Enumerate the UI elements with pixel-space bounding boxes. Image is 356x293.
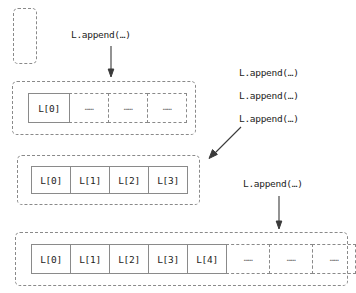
cell-ellipsis: ……: [124, 103, 133, 112]
arrow-down-1: [106, 46, 116, 78]
cell-row-stage-2: L[0] L[1] L[2] L[3]: [31, 166, 188, 194]
diagram-canvas: L.append(…) L[0] …… …… …… L.append(…) L.…: [0, 0, 356, 293]
cell-label: L[2]: [118, 175, 140, 186]
cell-empty-1: ……: [69, 93, 109, 123]
cell-l2: L[2]: [109, 244, 149, 274]
cell-empty-3: ……: [312, 244, 356, 274]
arrow-down-2: [274, 196, 284, 230]
cell-ellipsis: ……: [244, 254, 253, 263]
cell-label: L[3]: [157, 254, 179, 265]
cell-label: L[0]: [38, 103, 60, 114]
cell-label: L[2]: [118, 254, 140, 265]
cell-l1: L[1]: [70, 166, 110, 194]
cell-l4: L[4]: [187, 244, 227, 274]
cell-l0: L[0]: [28, 93, 70, 123]
append-label-4: L.append(…): [239, 113, 299, 124]
cell-ellipsis: ……: [85, 103, 94, 112]
cell-l3: L[3]: [148, 166, 188, 194]
cell-l1: L[1]: [70, 244, 110, 274]
cell-label: L[4]: [196, 254, 218, 265]
cell-label: L[1]: [79, 175, 101, 186]
empty-list-container: [13, 8, 37, 64]
cell-l2: L[2]: [109, 166, 149, 194]
cell-l0: L[0]: [31, 244, 71, 274]
cell-ellipsis: ……: [287, 254, 296, 263]
append-label-3: L.append(…): [239, 90, 299, 101]
cell-label: L[0]: [40, 254, 62, 265]
cell-empty-2: ……: [108, 93, 148, 123]
cell-l3: L[3]: [148, 244, 188, 274]
cell-empty-3: ……: [147, 93, 187, 123]
cell-empty-1: ……: [226, 244, 270, 274]
append-label-2: L.append(…): [239, 67, 299, 78]
cell-row-stage-3: L[0] L[1] L[2] L[3] L[4] …… …… ……: [31, 244, 356, 274]
append-label-1: L.append(…): [71, 29, 131, 40]
cell-row-stage-1: L[0] …… …… ……: [28, 93, 187, 123]
cell-label: L[3]: [157, 175, 179, 186]
cell-ellipsis: ……: [163, 103, 172, 112]
cell-ellipsis: ……: [330, 254, 339, 263]
arrow-diagonal-down-left: [205, 124, 245, 160]
append-label-5: L.append(…): [243, 178, 303, 189]
cell-label: L[0]: [40, 175, 62, 186]
cell-empty-2: ……: [269, 244, 313, 274]
cell-l0: L[0]: [31, 166, 71, 194]
cell-label: L[1]: [79, 254, 101, 265]
